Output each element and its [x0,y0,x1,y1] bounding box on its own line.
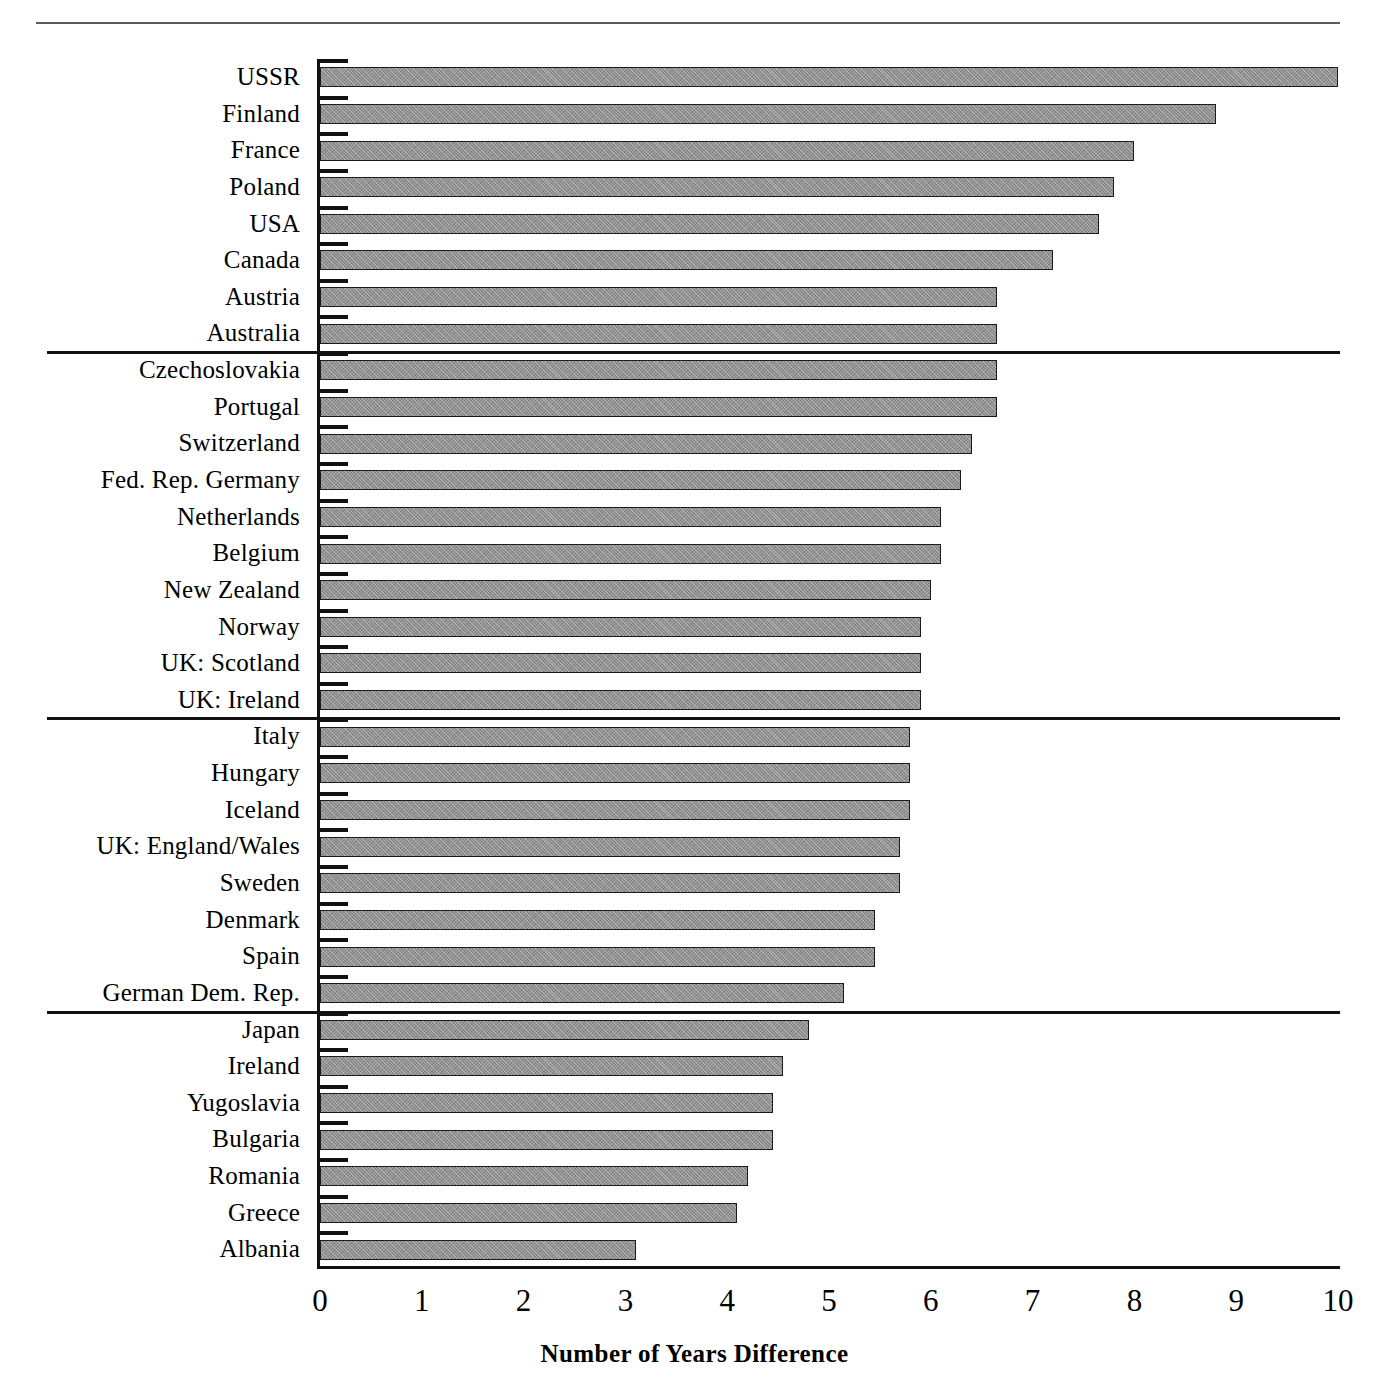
bar-row: Portugal [0,389,1389,426]
bar-row: Ireland [0,1048,1389,1085]
bar [320,287,997,307]
bar-row: Iceland [0,792,1389,829]
bar [320,873,900,893]
category-label: Japan [242,1015,300,1045]
bar [320,141,1134,161]
bar [320,947,875,967]
bar-row: Hungary [0,755,1389,792]
bar-row: Belgium [0,535,1389,572]
bar-row: Romania [0,1158,1389,1195]
y-axis-tick [320,1048,348,1052]
bar [320,250,1053,270]
category-label: German Dem. Rep. [102,978,300,1008]
bar [320,507,941,527]
x-tick-label: 10 [1308,1283,1368,1319]
bar [320,837,900,857]
bar [320,177,1114,197]
bar [320,617,921,637]
category-label: Poland [229,172,300,202]
category-label: France [231,135,300,165]
y-axis-tick [320,535,348,539]
bar-row: UK: England/Wales [0,828,1389,865]
x-tick-label: 9 [1206,1283,1266,1319]
bar-row: Austria [0,279,1389,316]
bar-row: Czechoslovakia [0,352,1389,389]
bar-row: France [0,132,1389,169]
bar-row: USSR [0,59,1389,96]
bar-row: Netherlands [0,499,1389,536]
y-axis-tick [320,682,348,686]
bar [320,580,931,600]
y-axis-tick [320,975,348,979]
bar [320,1203,737,1223]
category-label: Switzerland [178,428,300,458]
x-tick-label: 8 [1104,1283,1164,1319]
y-axis-tick [320,938,348,942]
category-label: Australia [207,318,300,348]
category-label: UK: Scotland [161,648,300,678]
bar-row: Sweden [0,865,1389,902]
category-label: Netherlands [177,502,300,532]
category-label: Italy [253,721,300,751]
bar [320,67,1338,87]
category-label: Greece [228,1198,300,1228]
y-axis-tick [320,389,348,393]
y-axis-tick [320,59,348,63]
x-tick-label: 3 [595,1283,655,1319]
category-label: Denmark [206,905,300,935]
y-axis-tick [320,572,348,576]
y-axis-tick [320,865,348,869]
bar-row: UK: Ireland [0,682,1389,719]
y-axis-tick [320,645,348,649]
category-label: Iceland [225,795,300,825]
bar-row: Australia [0,315,1389,352]
y-axis-tick [320,499,348,503]
bar-row: Denmark [0,902,1389,939]
bar-row: Albania [0,1231,1389,1268]
category-label: Sweden [220,868,300,898]
y-axis-tick [320,1158,348,1162]
category-label: Canada [224,245,300,275]
y-axis-tick [320,1085,348,1089]
y-axis-tick [320,425,348,429]
bar-row: Poland [0,169,1389,206]
bar [320,653,921,673]
bar-row: UK: Scotland [0,645,1389,682]
bar [320,1130,773,1150]
y-axis-tick [320,96,348,100]
bar [320,1166,748,1186]
y-axis-tick [320,1195,348,1199]
bar [320,360,997,380]
bar [320,800,910,820]
category-label: UK: England/Wales [97,831,300,861]
x-axis-title: Number of Years Difference [0,1340,1389,1368]
y-axis-tick [320,902,348,906]
bar [320,104,1216,124]
y-axis-tick [320,242,348,246]
y-axis-tick [320,279,348,283]
y-axis-tick [320,315,348,319]
group-separator-line [47,351,1340,354]
bar-row: Finland [0,96,1389,133]
category-label: USSR [237,62,300,92]
bar [320,324,997,344]
y-axis-tick [320,792,348,796]
bar-row: Bulgaria [0,1121,1389,1158]
category-label: Fed. Rep. Germany [101,465,300,495]
bar-row: Italy [0,718,1389,755]
bar [320,910,875,930]
bar [320,690,921,710]
x-tick-label: 6 [901,1283,961,1319]
bar-row: Norway [0,609,1389,646]
x-tick-label: 2 [494,1283,554,1319]
group-separator-line [47,1011,1340,1014]
y-axis-tick [320,169,348,173]
bar [320,727,910,747]
x-tick-label: 5 [799,1283,859,1319]
category-label: Portugal [214,392,300,422]
bar [320,1240,636,1260]
x-tick-label: 4 [697,1283,757,1319]
bar [320,1020,809,1040]
y-axis-tick [320,755,348,759]
bar [320,1056,783,1076]
